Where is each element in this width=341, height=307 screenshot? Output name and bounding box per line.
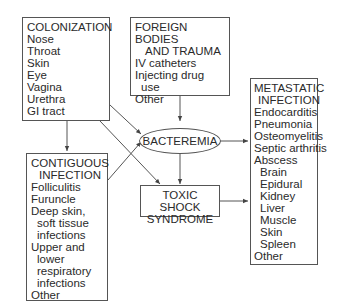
colonization-item: Skin [27,57,105,69]
toxic-shock-box: TOXIC SHOCK SYNDROME [140,185,220,217]
foreign-bodies-item: Other [135,93,225,105]
abscess-site: Liver [254,202,314,214]
metastatic-item: Pneumonia [254,118,314,130]
metastatic-other: Other [254,250,314,262]
contiguous-item: respiratory [31,265,103,277]
foreign-bodies-item: IV catheters [135,57,225,69]
colonization-item: Nose [27,33,105,45]
metastatic-infection-box: METASTATIC INFECTION Endocarditis Pneumo… [250,78,318,265]
foreign-bodies-title-line1: FOREIGN BODIES [135,21,225,45]
metastatic-title-line1: METASTATIC [254,82,314,94]
contiguous-infection-box: CONTIGUOUS INFECTION Folliculitis Furunc… [26,153,108,301]
metastatic-item: Endocarditis [254,106,314,118]
contiguous-item: soft tissue [31,217,103,229]
foreign-bodies-item: Injecting drug [135,69,225,81]
contiguous-item: lower [31,253,103,265]
foreign-bodies-box: FOREIGN BODIES AND TRAUMA IV catheters I… [130,17,230,96]
colonization-item: GI tract [27,105,105,117]
colonization-item: Eye [27,69,105,81]
abscess-site: Brain [254,166,314,178]
abscess-site: Epidural [254,178,314,190]
abscess-site: Skin [254,226,314,238]
contiguous-item: infections [31,229,103,241]
foreign-bodies-title-line2: AND TRAUMA [135,45,225,57]
bacteremia-node: BACTEREMIA [139,128,221,154]
colonization-item: Urethra [27,93,105,105]
contiguous-item: Furuncle [31,193,103,205]
contiguous-item: Other [31,289,103,301]
contiguous-item: Folliculitis [31,181,103,193]
toxic-shock-line1: TOXIC SHOCK [143,189,217,213]
metastatic-item: Septic arthritis [254,142,314,154]
arrow-colonization-to-toxicshock [100,121,160,184]
abscess-site: Spleen [254,238,314,250]
colonization-box: COLONIZATION Nose Throat Skin Eye Vagina… [22,17,110,121]
arrow-colonization-to-bacteremia [110,105,141,134]
colonization-item: Vagina [27,81,105,93]
foreign-bodies-item: use [135,81,225,93]
colonization-title: COLONIZATION [27,21,105,33]
colonization-item: Throat [27,45,105,57]
metastatic-item: Abscess [254,154,314,166]
bacteremia-label: BACTEREMIA [143,135,218,147]
contiguous-item: infections [31,277,103,289]
abscess-site: Kidney [254,190,314,202]
contiguous-title-line2: INFECTION [31,169,103,181]
toxic-shock-line2: SYNDROME [143,213,217,225]
arrow-contiguous-to-bacteremia [108,142,141,180]
contiguous-title-line1: CONTIGUOUS [31,157,103,169]
metastatic-title-line2: INFECTION [254,94,314,106]
metastatic-item: Osteomyelitis [254,130,314,142]
abscess-site: Muscle [254,214,314,226]
contiguous-item: Upper and [31,241,103,253]
contiguous-item: Deep skin, [31,205,103,217]
